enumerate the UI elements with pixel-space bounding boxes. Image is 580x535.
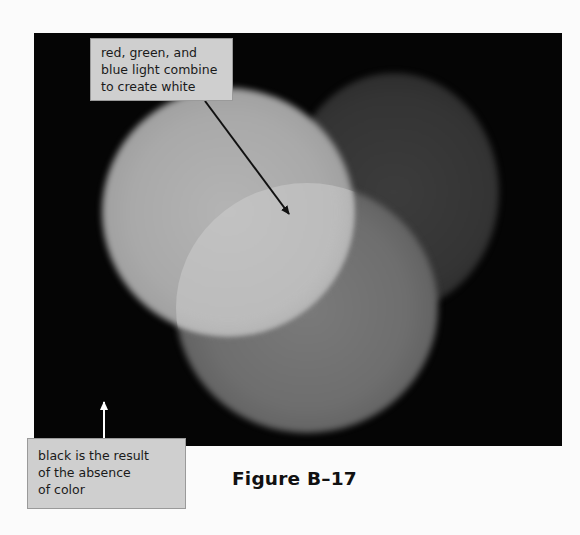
callout-bottom-label: black is the result of the absence of co…: [27, 438, 186, 509]
callout-bottom-line-2: of the absence: [38, 464, 177, 481]
figure-caption: Figure B–17: [232, 468, 357, 489]
spotlight-top-left: [102, 88, 354, 336]
callout-top-label: red, green, and blue light combine to cr…: [90, 38, 233, 101]
callout-top-line-1: red, green, and: [101, 44, 224, 61]
callout-top-line-3: to create white: [101, 78, 224, 95]
callout-top-line-2: blue light combine: [101, 61, 224, 78]
callout-bottom-line-3: of color: [38, 481, 177, 498]
callout-bottom-line-1: black is the result: [38, 447, 177, 464]
